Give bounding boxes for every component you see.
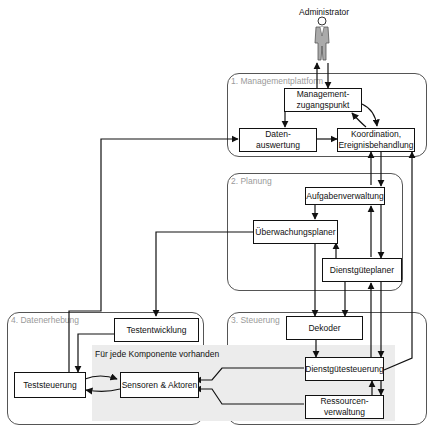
dekoder-box[interactable]: Dekoder [286, 316, 363, 340]
teststeuerung-box[interactable]: Teststeuerung [14, 372, 86, 398]
datenauswertung-box[interactable]: Daten- auswertung [239, 128, 317, 152]
dienstgueteplaner-box[interactable]: Dienstgüteplaner [322, 258, 402, 282]
koordination-box[interactable]: Koordination, Ereignisbehandlung [337, 128, 415, 152]
dienstguetesteuerung-box[interactable]: Dienstgütesteuerung [305, 357, 384, 381]
testentwicklung-box[interactable]: Testentwicklung [114, 318, 199, 342]
sensoren-aktoren-box[interactable]: Sensoren & Aktoren [120, 372, 199, 398]
managementzugangspunkt-box[interactable]: Management- zugangspunkt [284, 88, 362, 112]
ueberwachungsplaner-box[interactable]: Überwachungsplaner [253, 220, 338, 244]
ressourcenverwaltung-box[interactable]: Ressourcen- verwaltung [305, 395, 384, 419]
aufgabenverwaltung-box[interactable]: Aufgabenverwaltung [305, 187, 385, 205]
